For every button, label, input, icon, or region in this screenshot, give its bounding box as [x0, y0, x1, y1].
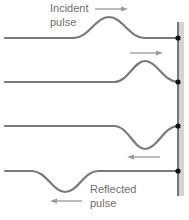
arrow-left-icon: [50, 199, 82, 204]
string-3: [5, 126, 178, 149]
frame-1-incident: Incident pulse: [5, 2, 181, 41]
reflected-label-line1: Reflected: [90, 183, 136, 195]
string-2: [5, 61, 178, 82]
string-1: [5, 17, 178, 38]
attachment-point-4: [175, 168, 180, 173]
incident-label-line2: pulse: [50, 16, 76, 28]
reflected-label-line2: pulse: [90, 197, 116, 209]
attachment-point-2: [175, 79, 180, 84]
attachment-point-1: [175, 35, 180, 40]
frame-2-arriving: [5, 51, 181, 85]
pulse-reflection-diagram: Incident pulse Reflected pulse: [0, 0, 189, 220]
attachment-point-3: [175, 123, 180, 128]
arrow-right-icon: [95, 7, 128, 12]
incident-label-line1: Incident: [50, 2, 89, 14]
frame-4-reflected: Reflected pulse: [5, 168, 181, 209]
arrow-right-icon: [130, 51, 163, 56]
arrow-left-icon: [127, 155, 160, 160]
frame-3-inverting: [5, 123, 181, 159]
